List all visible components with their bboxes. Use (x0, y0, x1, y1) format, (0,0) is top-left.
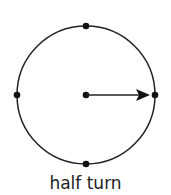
dot-bottom (83, 161, 90, 168)
arrow-right-icon (86, 89, 150, 101)
diagram-caption: half turn (0, 173, 171, 193)
turn-diagram (0, 0, 171, 195)
dot-top (83, 23, 90, 30)
dot-right (152, 92, 159, 99)
dot-left (14, 92, 21, 99)
